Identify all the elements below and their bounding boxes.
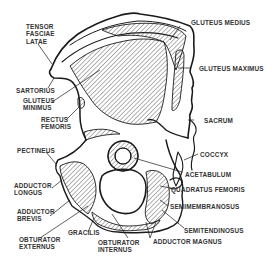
label-adductor-magnus: ADDUCTOR MAGNUS — [153, 238, 222, 245]
label-acetabulum: ACETABULUM — [185, 171, 231, 178]
label-obturator-externus: OBTURATOR EXTERNUS — [19, 236, 61, 251]
label-adductor-brevis: ADDUCTOR BREVIS — [17, 208, 55, 223]
label-pectineus: PECTINEUS — [17, 147, 55, 154]
label-gracilis: GRACILIS — [68, 229, 100, 236]
label-semitendinosus: SEMITENDINOSUS — [184, 227, 244, 234]
label-sartorius: SARTORIUS — [16, 87, 55, 94]
pelvis-diagram: TENSOR FASCIAE LATAE SARTORIUS GLUTEUS M… — [0, 0, 274, 269]
label-rectus-femoris: RECTUS FEMORIS — [41, 116, 71, 131]
label-adductor-longus: ADDUCTOR LONGUS — [14, 182, 52, 197]
label-gluteus-medius: GLUTEUS MEDIUS — [191, 19, 250, 26]
label-quadratus-femoris: QUADRATUS FEMORIS — [171, 186, 245, 193]
label-tensor-fasciae-latae: TENSOR FASCIAE LATAE — [26, 23, 55, 45]
label-coccyx: COCCYX — [200, 151, 228, 158]
pubic-area — [60, 162, 96, 214]
ischial-area — [145, 170, 169, 224]
label-sacrum: SACRUM — [204, 117, 233, 124]
gluteus-minimus-area — [70, 39, 167, 124]
label-gluteus-maximus: GLUTEUS MAXIMUS — [199, 65, 264, 72]
label-gluteus-minimus: GLUTEUS MINIMUS — [23, 97, 55, 112]
label-semimembranosus: SEMIMEMBRANOSUS — [170, 203, 239, 210]
label-obturator-internus: OBTURATOR INTERNUS — [98, 239, 140, 254]
